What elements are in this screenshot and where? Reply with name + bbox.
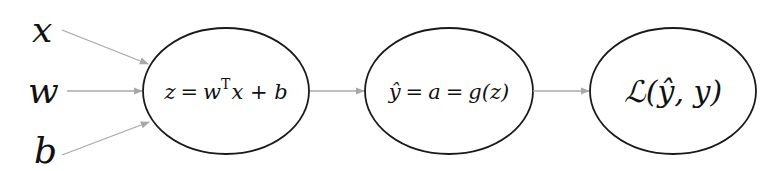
edge-x-to-linear	[62, 30, 148, 64]
computation-graph: x w b z=wTx + b ŷ=a=g(z) ℒ(ŷ, y)	[0, 0, 784, 171]
input-label-b: b	[34, 130, 57, 171]
input-label-w: w	[28, 70, 59, 111]
node-loss-formula: ℒ(ŷ, y)	[624, 74, 722, 109]
edge-b-to-linear	[62, 122, 149, 155]
node-linear-formula: z=wTx + b	[163, 76, 287, 104]
input-label-x: x	[32, 9, 52, 50]
node-activation-formula: ŷ=a=g(z)	[388, 80, 510, 104]
